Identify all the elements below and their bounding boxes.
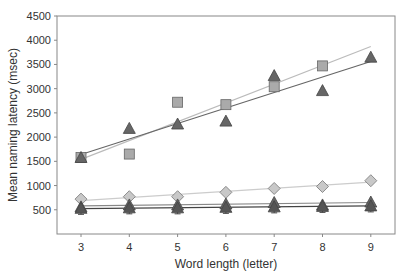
x-axis-label: Word length (letter) [175,257,278,271]
data-point-square [318,61,328,71]
x-tick-label: 4 [126,241,132,253]
x-tick-label: 9 [368,241,374,253]
y-tick-label: 500 [33,204,51,216]
chart-canvas: 5001000150020002500300035004000450034567… [0,0,406,278]
y-tick-label: 1000 [27,180,51,192]
data-point-diamond [268,182,280,194]
y-tick-label: 4500 [27,10,51,22]
scatter-chart: 5001000150020002500300035004000450034567… [0,0,406,278]
x-tick-label: 7 [271,241,277,253]
data-point-square [173,97,183,107]
y-tick-label: 2000 [27,131,51,143]
data-point-triangle [268,70,280,81]
axes: 5001000150020002500300035004000450034567… [27,10,395,253]
y-tick-label: 2500 [27,107,51,119]
data-point-triangle [365,51,377,62]
data-point-triangle [123,122,135,133]
data-point-square [124,149,134,159]
data-point-diamond [220,186,232,198]
x-tick-label: 8 [319,241,325,253]
data-points [75,51,377,214]
x-tick-label: 3 [78,241,84,253]
x-tick-label: 6 [223,241,229,253]
y-tick-label: 4000 [27,34,51,46]
data-point-triangle [220,115,232,126]
y-tick-label: 3000 [27,83,51,95]
data-point-square [269,82,279,92]
y-tick-label: 3500 [27,58,51,70]
data-point-square [221,100,231,110]
data-point-diamond [317,181,329,193]
data-point-diamond [365,175,377,187]
data-point-triangle [317,85,329,96]
x-tick-label: 5 [175,241,181,253]
y-tick-label: 1500 [27,155,51,167]
y-axis-label: Mean naming latency (msec) [6,48,20,202]
